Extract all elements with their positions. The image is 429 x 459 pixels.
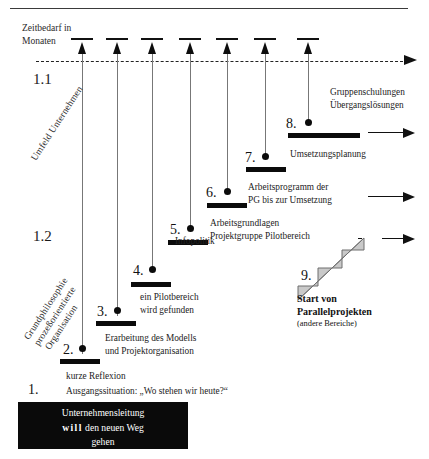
- tick-mark-5: [216, 38, 238, 40]
- milestone-bar-4: [131, 282, 171, 287]
- leadership-line3: gehen: [18, 435, 188, 450]
- stem-line-4: [190, 54, 191, 226]
- milestone-dot-4: [149, 266, 156, 273]
- leadership-line2-rest: den neuen Weg: [83, 422, 144, 433]
- outcome-arrow-line-1: [368, 132, 404, 133]
- milestone-number-7: 7.: [245, 151, 256, 165]
- stairs-label-line2: Parallelprojekten: [297, 305, 372, 318]
- up-arrow-icon-7: [304, 42, 312, 54]
- tick-mark-7: [297, 38, 319, 40]
- baseline-dashed-axis: [36, 61, 408, 62]
- milestone-caption-1-line2: Ausgangssituation: „Wo stehen wir heute?…: [66, 385, 228, 397]
- milestone-dot-7: [262, 153, 269, 160]
- milestone-number-9: 9.: [301, 269, 312, 283]
- outcome-arrow-icon-1: [403, 128, 415, 138]
- milestone-number-4: 4.: [133, 264, 144, 278]
- stairs-label-line3: (andere Bereiche): [297, 318, 372, 330]
- milestone-bar-2: [60, 359, 100, 364]
- tick-mark-4: [179, 38, 201, 40]
- milestone-caption-7-line1: Arbeitsprogramm der: [248, 181, 328, 193]
- section-number-1-2: 1.2: [33, 228, 52, 245]
- milestone-number-8: 8.: [286, 117, 297, 131]
- section-number-1-1: 1.1: [33, 71, 52, 88]
- leadership-statement-box: Unternehmensleitung will den neuen Weg g…: [18, 402, 188, 449]
- milestone-number-1: 1.: [28, 383, 39, 397]
- outcome-arrow-line-2: [368, 196, 404, 197]
- stairs-label-line1: Start von: [297, 292, 372, 305]
- note-uebergangsloesungen: Übergangslösungen: [330, 99, 404, 111]
- leadership-will-emphasis: will: [62, 422, 83, 433]
- up-arrow-icon-4: [186, 42, 194, 54]
- diagram-canvas: Zeitbedarf in Monaten 1.1 Umfeld Unterne…: [0, 0, 429, 459]
- stem-line-1: [82, 54, 83, 354]
- milestone-bar-8: [288, 133, 360, 138]
- milestone-caption-8: Umsetzungsplanung: [290, 148, 366, 160]
- milestone-dot-5: [187, 225, 194, 232]
- leadership-line1: Unternehmensleitung: [18, 406, 188, 421]
- milestone-dot-8: [305, 119, 312, 126]
- tick-mark-1: [71, 38, 93, 40]
- stem-line-6: [265, 54, 266, 154]
- note-gruppenschulungen: Gruppenschulungen: [330, 86, 405, 98]
- milestone-caption-7-line2: PG bis zur Umsetzung: [248, 194, 332, 206]
- stem-line-2: [117, 54, 118, 316]
- milestone-caption-5: Infopolitik: [175, 235, 215, 247]
- tick-mark-6: [254, 38, 276, 40]
- milestone-dot-2: [79, 345, 86, 352]
- milestone-bar-3: [96, 321, 136, 326]
- milestone-caption-3-line1: Erarbeitung des Modells: [105, 332, 196, 344]
- outcome-arrow-icon-2: [403, 192, 415, 202]
- tick-mark-3: [141, 38, 163, 40]
- baseline-arrow-icon: [404, 55, 417, 65]
- top-divider-rule: [10, 8, 408, 9]
- milestone-number-2: 2.: [63, 343, 74, 357]
- up-arrow-icon-1: [78, 42, 86, 54]
- up-arrow-icon-6: [261, 42, 269, 54]
- milestone-caption-1-line1: kurze Reflexion: [66, 370, 126, 382]
- milestone-bar-7: [246, 167, 286, 172]
- milestone-caption-6-line1: Arbeitsgrundlagen: [210, 217, 279, 229]
- section-label-1-1: Umfeld Unternehmen: [29, 84, 85, 162]
- milestone-number-6: 6.: [206, 186, 217, 200]
- stem-line-7: [308, 54, 309, 120]
- milestone-bar-6: [207, 203, 247, 208]
- milestone-number-3: 3.: [97, 305, 108, 319]
- leadership-line2: will den neuen Weg: [18, 421, 188, 436]
- up-arrow-icon-3: [148, 42, 156, 54]
- milestone-caption-4-line1: ein Pilotbereich: [140, 291, 199, 303]
- outcome-arrow-icon-3: [403, 234, 415, 244]
- up-arrow-icon-2: [113, 42, 121, 54]
- up-arrow-icon-5: [223, 42, 231, 54]
- milestone-caption-3-line2: und Projektorganisation: [105, 345, 194, 357]
- milestone-caption-4-line2: wird gefunden: [140, 304, 194, 316]
- stem-line-5: [227, 54, 228, 189]
- time-axis-label-line1: Zeitbedarf in: [22, 22, 142, 35]
- stairs-label: Start von Parallelprojekten (andere Bere…: [297, 292, 372, 330]
- tick-mark-2: [106, 38, 128, 40]
- milestone-dot-6: [224, 188, 231, 195]
- milestone-caption-6-line2: Projektgruppe Pilotbereich: [210, 230, 310, 242]
- milestone-dot-3: [114, 307, 121, 314]
- stem-line-3: [152, 54, 153, 268]
